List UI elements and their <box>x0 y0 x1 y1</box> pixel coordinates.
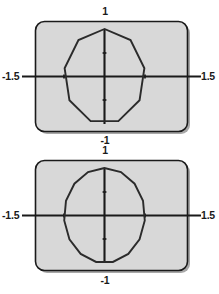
lower-plot-canvas <box>0 139 219 294</box>
upper-label-left: -1.5 <box>2 71 19 82</box>
upper-label-right: 1.5 <box>201 71 215 82</box>
upper-label-top: 1 <box>96 6 114 17</box>
upper-plot-canvas <box>0 0 219 147</box>
two-panel-parametric-figure: 1 -1 -1.5 1.5 1 -1 -1.5 1.5 <box>0 0 219 294</box>
lower-label-left: -1.5 <box>2 210 19 221</box>
upper-plot: 1 -1 -1.5 1.5 <box>0 0 219 147</box>
lower-label-right: 1.5 <box>201 210 215 221</box>
lower-plot: 1 -1 -1.5 1.5 <box>0 139 219 294</box>
lower-label-bottom: -1 <box>95 275 115 286</box>
lower-label-top: 1 <box>96 145 114 156</box>
